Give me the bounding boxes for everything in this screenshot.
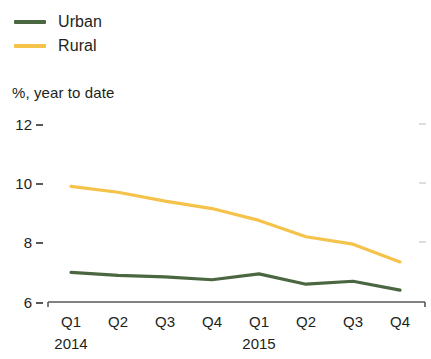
y-tick-label-12: 12: [6, 117, 32, 132]
x-tick-label-1: Q2: [95, 314, 141, 329]
plot-area: [0, 0, 431, 359]
y-tick-label-10: 10: [6, 176, 32, 191]
y-tick-dash-6: [36, 302, 43, 304]
x-tick-label-2: Q3: [142, 314, 188, 329]
x-tick-label-6: Q3: [330, 314, 376, 329]
line-chart: Urban Rural %, year to date: [0, 0, 431, 359]
x-tick-label-7: Q4: [377, 314, 423, 329]
y-tick-dash-10: [36, 183, 43, 185]
plot-svg: [0, 0, 431, 359]
y-tick-label-6: 6: [6, 295, 32, 310]
x-tick-label-4: Q1: [236, 314, 282, 329]
right-axis-ticks: [419, 124, 426, 242]
x-group-label-2015: 2015: [229, 336, 289, 351]
x-group-label-2014: 2014: [41, 336, 101, 351]
x-tick-label-3: Q4: [189, 314, 235, 329]
x-tick-label-5: Q2: [283, 314, 329, 329]
y-tick-dash-8: [36, 242, 43, 244]
y-tick-dash-12: [36, 124, 43, 126]
series-line-urban: [71, 272, 400, 290]
y-tick-label-8: 8: [6, 235, 32, 250]
x-tick-label-0: Q1: [48, 314, 94, 329]
series-line-rural: [71, 186, 400, 262]
